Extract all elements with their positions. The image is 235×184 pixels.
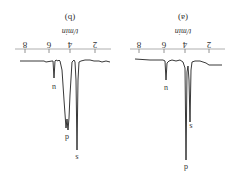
tick-label: 2 — [207, 40, 212, 50]
tick-label: 6 — [46, 40, 51, 50]
panel-label: (b) — [65, 13, 76, 23]
tick-label: 4 — [67, 40, 72, 50]
panel-label: (a) — [178, 13, 188, 23]
figure-svg: 8 6 4 2 t/min (b) u d s 8 6 4 2 t/min (a… — [0, 0, 235, 184]
x-axis-label: t/min — [62, 27, 78, 36]
x-axis-label: t/min — [175, 27, 191, 36]
tick-label: 8 — [136, 40, 141, 50]
panel-a: 8 6 4 2 t/min (a) u s d — [130, 13, 225, 172]
tick-labels: 8 6 4 2 — [22, 40, 97, 50]
peak-label-d: d — [65, 133, 69, 142]
peak-label-s: s — [75, 153, 78, 162]
tick-label: 4 — [182, 40, 187, 50]
peak-label-u: u — [164, 84, 168, 93]
panel-b: 8 6 4 2 t/min (b) u d s — [15, 13, 111, 162]
tick-label: 2 — [93, 40, 98, 50]
chromatogram-figure: 8 6 4 2 t/min (b) u d s 8 6 4 2 t/min (a… — [0, 0, 235, 184]
tick-label: 6 — [161, 40, 166, 50]
peak-label-u: u — [52, 83, 56, 92]
peak-label-s: s — [189, 122, 192, 131]
tick-label: 8 — [22, 40, 27, 50]
trace-a — [135, 59, 222, 160]
tick-labels: 8 6 4 2 — [136, 40, 211, 50]
trace-b — [20, 60, 110, 150]
x-ticks — [139, 49, 209, 53]
peak-label-d: d — [184, 163, 188, 172]
x-ticks — [25, 49, 95, 53]
